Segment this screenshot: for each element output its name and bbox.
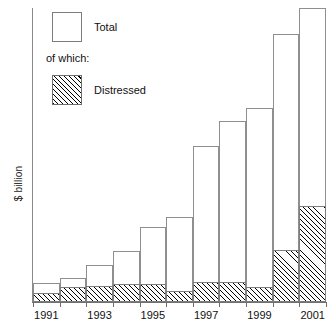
x-axis-tick	[326, 302, 327, 307]
legend-swatch-distressed	[52, 75, 82, 105]
bar-segment-distressed	[193, 282, 220, 302]
y-axis-title: $ billion	[13, 149, 24, 219]
x-axis-tick	[219, 302, 220, 307]
bar-segment-total	[193, 146, 220, 302]
x-axis-label: 1993	[84, 309, 116, 321]
bar-group	[113, 8, 140, 302]
x-axis-tick	[246, 302, 247, 307]
bar-group	[86, 8, 113, 302]
bar-segment-distressed	[166, 291, 193, 302]
bar-chart: $ billion 199119931995199719992001 Total…	[0, 0, 335, 336]
x-axis-tick	[60, 302, 61, 307]
x-axis-tick	[273, 302, 274, 307]
x-axis-label: 1991	[30, 309, 62, 321]
bar-group	[193, 8, 220, 302]
x-axis-tick	[113, 302, 114, 307]
legend-label-distressed: Distressed	[94, 84, 146, 96]
x-axis-tick	[166, 302, 167, 307]
bar-segment-distressed	[33, 293, 60, 302]
x-axis-label: 1995	[137, 309, 169, 321]
x-axis-tick	[193, 302, 194, 307]
bar-segment-distressed	[113, 284, 140, 302]
x-axis-label: 1999	[243, 309, 275, 321]
bar-segment-distressed	[140, 284, 167, 302]
bar-segment-total	[246, 108, 273, 302]
bar-group	[166, 8, 193, 302]
bar-segment-distressed	[273, 250, 300, 302]
bar-segment-distressed	[219, 282, 246, 302]
legend-note-of-which: of which:	[46, 52, 89, 64]
bar-group	[140, 8, 167, 302]
x-axis-tick	[86, 302, 87, 307]
bar-group	[246, 8, 273, 302]
x-axis-label: 2001	[297, 309, 329, 321]
bar-segment-distressed	[299, 206, 326, 302]
bar-segment-distressed	[86, 286, 113, 302]
bar-group	[273, 8, 300, 302]
bar-group	[219, 8, 246, 302]
legend-label-total: Total	[94, 21, 117, 33]
x-axis-label: 1997	[190, 309, 222, 321]
x-axis-tick	[33, 302, 34, 307]
x-axis-tick	[140, 302, 141, 307]
legend-swatch-total	[52, 12, 82, 42]
bar-segment-total	[219, 121, 246, 302]
bar-segment-total	[166, 217, 193, 302]
x-axis-tick	[299, 302, 300, 307]
x-axis-line	[32, 302, 326, 303]
bar-segment-distressed	[60, 287, 87, 302]
bar-group	[299, 8, 326, 302]
bar-segment-distressed	[246, 287, 273, 302]
